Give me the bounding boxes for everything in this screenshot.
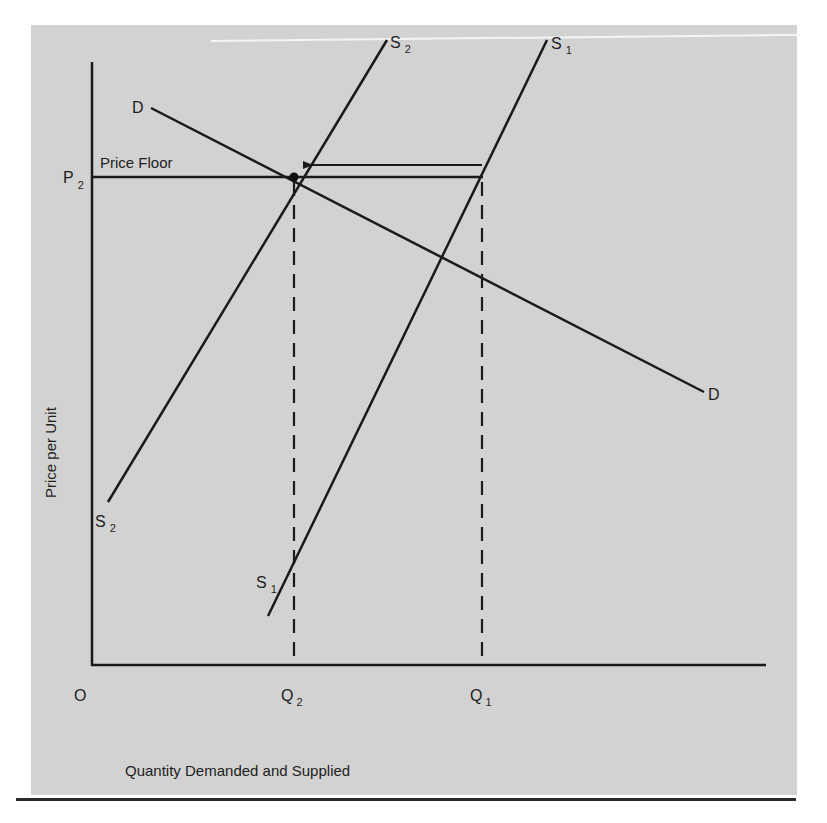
price-floor-label: Price Floor: [100, 154, 173, 171]
price-floor-chart: Price Floor P2 D D S2 S1 S2 S1 O Q2 Q1 Q…: [0, 0, 827, 823]
d-top-label: D: [132, 99, 144, 116]
q2-label-main: Q: [281, 687, 293, 704]
s2-top-label-main: S: [390, 34, 401, 51]
s2-bottom-label-main: S: [95, 513, 106, 530]
y-axis-label: Price per Unit: [42, 406, 59, 498]
s2-top-label-sub: 2: [405, 43, 411, 55]
s1-top-label-sub: 1: [566, 44, 572, 56]
s1-bottom-label-sub: 1: [271, 583, 277, 595]
d-bottom-label: D: [708, 386, 720, 403]
s2-top-label: S2: [390, 34, 411, 55]
q2-label-sub: 2: [296, 696, 302, 708]
p2-label: P2: [63, 169, 84, 191]
bottom-rule: [16, 798, 796, 801]
s1-bottom-label-main: S: [256, 574, 267, 591]
supply-curve-s2: [108, 40, 387, 502]
equilibrium-point: [290, 173, 299, 182]
supply-curve-s1: [268, 40, 547, 616]
demand-curve-d: [151, 108, 704, 392]
s2-bottom-label: S2: [95, 513, 116, 534]
q1-label-sub: 1: [485, 696, 491, 708]
p2-label-sub: 2: [78, 179, 84, 191]
s1-top-label: S1: [551, 35, 572, 56]
s1-top-label-main: S: [551, 35, 562, 52]
s1-bottom-label: S1: [256, 574, 277, 595]
x-axis-label: Quantity Demanded and Supplied: [125, 762, 350, 779]
s2-bottom-label-sub: 2: [110, 522, 116, 534]
q1-label: Q1: [470, 687, 492, 708]
p2-label-main: P: [63, 169, 74, 186]
q2-label: Q2: [281, 687, 303, 708]
q1-label-main: Q: [470, 687, 482, 704]
origin-label: O: [74, 687, 86, 704]
